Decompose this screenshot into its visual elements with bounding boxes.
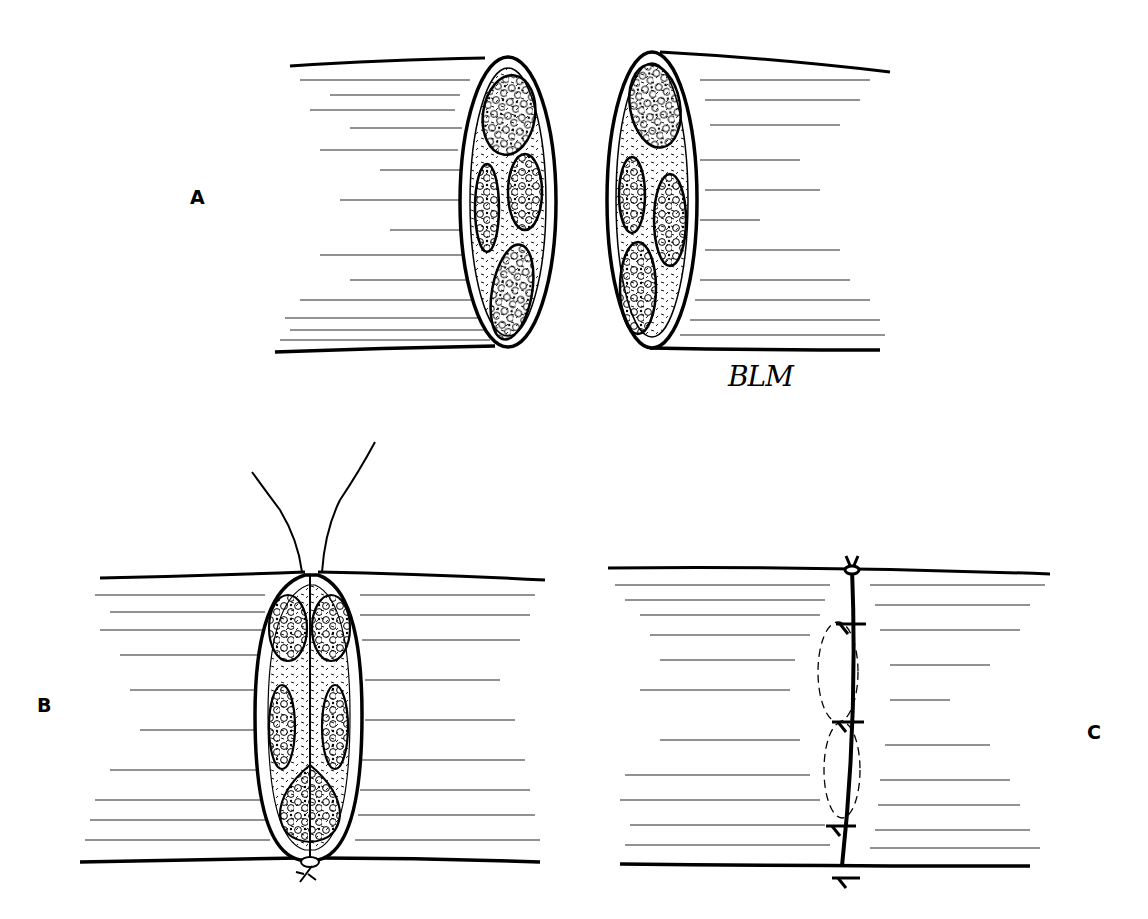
nerve-repair-figure: A B C BLM — [0, 0, 1148, 919]
panel-label-b: B — [37, 696, 51, 715]
panel-a-left-stump — [275, 57, 556, 352]
illustration-artwork — [0, 0, 1148, 919]
panel-label-c: C — [1087, 723, 1101, 742]
panel-b-approximated-nerve — [80, 442, 545, 882]
panel-a-right-stump — [607, 52, 890, 350]
panel-c-repaired-nerve — [608, 556, 1050, 888]
artist-signature: BLM — [728, 360, 793, 393]
panel-label-a: A — [190, 188, 205, 207]
